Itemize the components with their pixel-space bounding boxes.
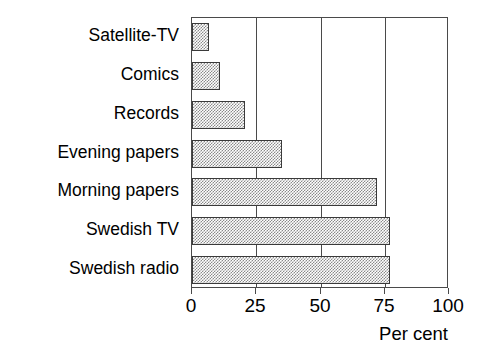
category-axis-label: Swedish TV bbox=[86, 217, 179, 241]
x-tick-label: 75 bbox=[354, 295, 414, 317]
category-axis-label: Records bbox=[114, 101, 179, 125]
category-axis-label: Morning papers bbox=[57, 178, 179, 202]
x-axis-title: Per cent bbox=[191, 323, 448, 345]
bar bbox=[192, 23, 209, 51]
category-axis-label: Evening papers bbox=[57, 140, 179, 164]
bar bbox=[192, 256, 390, 284]
bar bbox=[192, 101, 245, 129]
x-tick-label: 0 bbox=[161, 295, 221, 317]
chart-title bbox=[18, 0, 318, 5]
category-axis-label: Swedish radio bbox=[69, 256, 179, 280]
x-tick-label: 100 bbox=[418, 295, 478, 317]
x-tick-mark bbox=[255, 288, 256, 294]
x-tick-label: 50 bbox=[290, 295, 350, 317]
x-tick-mark bbox=[320, 288, 321, 294]
category-axis-label: Satellite-TV bbox=[89, 23, 179, 47]
category-axis-labels: Satellite-TVComicsRecordsEvening papersM… bbox=[0, 16, 186, 288]
plot-area bbox=[191, 17, 448, 288]
category-axis-label: Comics bbox=[121, 62, 179, 86]
bar-chart-figure: Satellite-TVComicsRecordsEvening papersM… bbox=[0, 0, 479, 353]
x-tick-label: 25 bbox=[225, 295, 285, 317]
bar bbox=[192, 178, 377, 206]
bar bbox=[192, 62, 220, 90]
bars-group bbox=[192, 18, 447, 287]
x-tick-mark bbox=[384, 288, 385, 294]
bar bbox=[192, 140, 282, 168]
x-tick-mark bbox=[191, 288, 192, 294]
x-tick-mark bbox=[448, 288, 449, 294]
bar bbox=[192, 217, 390, 245]
